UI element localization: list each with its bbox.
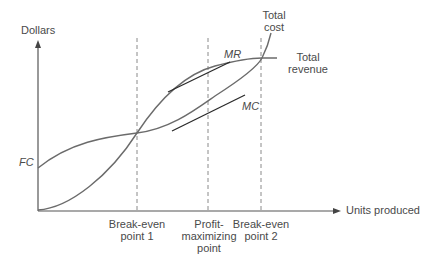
mr-label: MR: [224, 48, 241, 60]
y-axis-label: Dollars: [21, 24, 55, 36]
break-even-1-label-line1: Break-even: [102, 218, 172, 230]
break-even-2-label-line2: point 2: [226, 230, 296, 242]
total-cost-label-line2: cost: [256, 21, 292, 33]
total-cost-label-line1: Total: [256, 9, 292, 21]
profit-max-label-line3: point: [178, 242, 240, 254]
fixed-cost-label: FC: [19, 156, 34, 168]
total-revenue-label: Total revenue: [283, 51, 333, 75]
x-axis-arrow-icon: [333, 208, 341, 214]
break-even-2-label: Break-even point 2: [226, 218, 296, 242]
total-cost-label: Total cost: [256, 9, 292, 33]
x-axis-label: Units produced: [346, 204, 420, 216]
break-even-1-label-line2: point 1: [102, 230, 172, 242]
y-axis-arrow-icon: [35, 40, 41, 48]
mr-tangent-line: [168, 62, 230, 92]
mc-label: MC: [242, 100, 259, 112]
break-even-1-label: Break-even point 1: [102, 218, 172, 242]
total-revenue-label-line1: Total: [283, 51, 333, 63]
total-revenue-curve: [38, 58, 277, 210]
break-even-2-label-line1: Break-even: [226, 218, 296, 230]
total-revenue-label-line2: revenue: [283, 63, 333, 75]
